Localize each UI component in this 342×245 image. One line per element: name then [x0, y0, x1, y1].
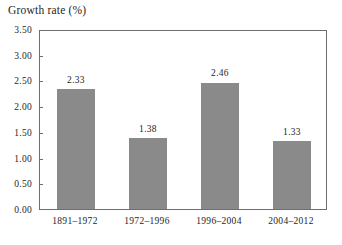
x-tick-label: 1996–2004 — [196, 216, 241, 226]
bar — [129, 138, 167, 209]
x-tick-label: 1891–1972 — [52, 216, 97, 226]
y-tick-label: 2.00 — [14, 102, 32, 112]
y-tick-label: 0.50 — [14, 179, 32, 189]
y-tick-mark — [39, 81, 43, 82]
y-tick-label: 1.00 — [14, 154, 32, 164]
y-tick-label: 1.50 — [14, 128, 32, 138]
chart-title: Growth rate (%) — [8, 4, 86, 16]
bar-value-label: 2.46 — [211, 68, 229, 78]
x-tick-label: 2004–2012 — [268, 216, 313, 226]
x-tick-label: 1972–1996 — [124, 216, 169, 226]
bar — [273, 141, 311, 209]
growth-rate-bar-chart: Growth rate (%) 0.000.501.001.502.002.50… — [0, 0, 342, 245]
bar-value-label: 1.38 — [139, 124, 157, 134]
y-tick-mark — [39, 184, 43, 185]
y-tick-label: 2.50 — [14, 76, 32, 86]
y-tick-mark — [39, 159, 43, 160]
bar — [57, 89, 95, 209]
y-tick-mark — [39, 107, 43, 108]
bar-value-label: 2.33 — [67, 75, 85, 85]
y-tick-label: 0.00 — [14, 205, 32, 215]
bar — [201, 83, 239, 210]
y-tick-mark — [39, 56, 43, 57]
plot-area: 2.331.382.461.33 — [39, 30, 327, 210]
y-tick-label: 3.50 — [14, 25, 32, 35]
y-tick-label: 3.00 — [14, 51, 32, 61]
bar-value-label: 1.33 — [283, 127, 301, 137]
x-axis: 1891–19721972–19961996–20042004–2012 — [39, 214, 327, 236]
y-axis: 0.000.501.001.502.002.503.003.50 — [0, 30, 36, 210]
y-tick-mark — [39, 133, 43, 134]
